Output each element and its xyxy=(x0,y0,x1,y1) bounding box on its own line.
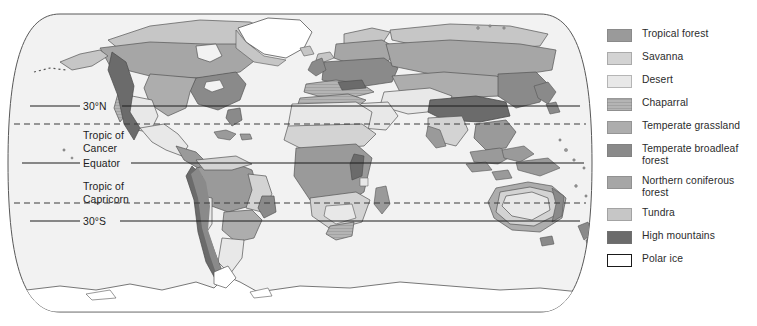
map-canvas: 30°N Tropic of Cancer Equator Tropic of … xyxy=(0,0,600,326)
lat-label-tropic-capricorn-line1: Tropic of xyxy=(83,181,124,192)
lat-label-tropic-cancer-line1: Tropic of xyxy=(83,130,124,141)
legend-item-temperate-grassland: Temperate grassland xyxy=(607,120,757,134)
legend-swatch-tropical-forest xyxy=(607,29,632,42)
legend-swatch-high-mountains xyxy=(607,231,632,244)
lat-label-tropic-cancer-line2: Cancer xyxy=(83,143,118,154)
legend-swatch-desert xyxy=(607,75,632,88)
legend-label-tropical-forest: Tropical forest xyxy=(642,28,708,40)
legend-item-tundra: Tundra xyxy=(607,207,757,221)
legend-item-chaparral: Chaparral xyxy=(607,97,757,111)
legend-item-savanna: Savanna xyxy=(607,51,757,65)
legend-label-polar-ice: Polar ice xyxy=(642,253,683,265)
world-map: 30°N Tropic of Cancer Equator Tropic of … xyxy=(0,0,600,326)
lat-label-equator: Equator xyxy=(83,158,121,169)
legend-swatch-temperate-broadleaf-forest xyxy=(607,144,632,157)
biome-legend: Tropical forest Savanna Desert Chaparral… xyxy=(607,28,757,276)
legend-label-tundra: Tundra xyxy=(642,207,675,219)
legend-item-temperate-broadleaf-forest: Temperate broadleaf forest xyxy=(607,143,757,166)
biome-map-figure: 30°N Tropic of Cancer Equator Tropic of … xyxy=(0,0,757,326)
legend-swatch-polar-ice xyxy=(607,254,632,267)
legend-label-savanna: Savanna xyxy=(642,51,683,63)
legend-swatch-tundra xyxy=(607,208,632,221)
legend-item-desert: Desert xyxy=(607,74,757,88)
legend-swatch-savanna xyxy=(607,52,632,65)
legend-swatch-temperate-grassland xyxy=(607,121,632,134)
legend-label-northern-coniferous-forest: Northern coniferous forest xyxy=(642,175,754,198)
legend-label-high-mountains: High mountains xyxy=(642,230,715,242)
legend-item-high-mountains: High mountains xyxy=(607,230,757,244)
legend-label-desert: Desert xyxy=(642,74,673,86)
legend-label-chaparral: Chaparral xyxy=(642,97,688,109)
lat-label-30s: 30°S xyxy=(83,216,106,227)
legend-label-temperate-broadleaf-forest: Temperate broadleaf forest xyxy=(642,143,754,166)
lat-label-tropic-capricorn-line2: Capricorn xyxy=(83,194,129,205)
legend-item-northern-coniferous-forest: Northern coniferous forest xyxy=(607,175,757,198)
lat-label-30n: 30°N xyxy=(83,101,107,112)
legend-swatch-chaparral xyxy=(607,98,632,111)
legend-label-temperate-grassland: Temperate grassland xyxy=(642,120,740,132)
legend-item-tropical-forest: Tropical forest xyxy=(607,28,757,42)
legend-item-polar-ice: Polar ice xyxy=(607,253,757,267)
legend-swatch-northern-coniferous-forest xyxy=(607,176,632,189)
